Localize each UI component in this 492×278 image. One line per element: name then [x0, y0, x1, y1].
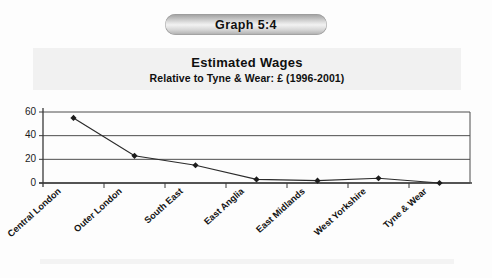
footer-bar [40, 259, 454, 264]
y-tick-label: 60 [25, 106, 37, 117]
chart-title-band: Estimated Wages Relative to Tyne & Wear:… [33, 48, 461, 90]
series-line [74, 118, 440, 183]
x-tick-label: Tyne & Wear [381, 186, 429, 230]
chart-title: Estimated Wages [191, 55, 303, 70]
data-point-marker [131, 153, 137, 159]
y-tick-label: 40 [25, 129, 37, 140]
data-point-marker [375, 175, 381, 181]
x-tick-label: West Yorkshire [312, 186, 368, 238]
chart-area: 0204060 Central LondonOuter LondonSouth … [0, 96, 492, 246]
graph-number-label: Graph 5:4 [215, 18, 277, 32]
gridlines [43, 112, 470, 183]
graph-number-pill: Graph 5:4 [165, 14, 327, 35]
y-axis [39, 108, 43, 187]
x-tick-marks [104, 183, 409, 188]
x-tick-label: Outer London [72, 186, 124, 234]
line-chart: 0204060 Central LondonOuter LondonSouth … [0, 96, 492, 246]
y-tick-labels: 0204060 [25, 106, 37, 188]
x-tick-label: East Midlands [254, 186, 307, 235]
x-tick-label: Central London [6, 186, 63, 239]
chart-subtitle: Relative to Tyne & Wear: £ (1996-2001) [150, 72, 345, 84]
y-tick-label: 20 [25, 153, 37, 164]
data-point-marker [70, 115, 76, 121]
data-point-marker [192, 162, 198, 168]
x-tick-label: South East [142, 186, 184, 226]
y-tick-label: 0 [30, 177, 36, 188]
figure-page: Graph 5:4 Estimated Wages Relative to Ty… [0, 0, 492, 278]
graph-number-banner: Graph 5:4 [0, 14, 492, 35]
x-tick-label: East Anglia [202, 185, 246, 226]
data-point-marker [436, 180, 442, 186]
data-point-marker [253, 176, 259, 182]
x-tick-labels: Central LondonOuter LondonSouth EastEast… [6, 185, 429, 238]
